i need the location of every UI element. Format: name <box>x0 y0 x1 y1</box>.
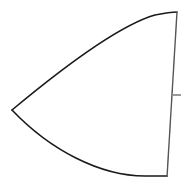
wedge-diagram <box>0 0 188 189</box>
lower-curve <box>12 110 167 176</box>
upper-curve <box>12 12 177 110</box>
